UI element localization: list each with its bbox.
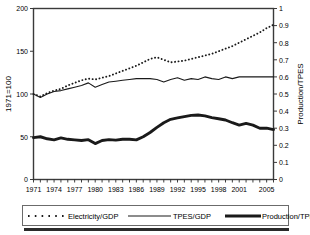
y-right-tick-label: 0.5 bbox=[279, 91, 289, 98]
chart-container: 050100150200 00.10.20.30.40.50.60.70.80.… bbox=[0, 0, 310, 235]
legend-shadow bbox=[24, 228, 289, 231]
x-tick-label: 1971 bbox=[26, 186, 42, 193]
y-right-tick-label: 1 bbox=[279, 5, 283, 12]
legend-label-electricity-gdp: Electricity/GDP bbox=[68, 212, 118, 221]
x-tick-label: 1977 bbox=[67, 186, 83, 193]
x-tick-label: 2001 bbox=[231, 186, 247, 193]
x-tick-label: 1992 bbox=[170, 186, 186, 193]
y-axis-right-title: Production/TPES bbox=[296, 63, 305, 124]
y-right-tick-label: 0 bbox=[279, 176, 283, 183]
x-tick-label: 1995 bbox=[190, 186, 206, 193]
y-axis-left-title: 1971=100 bbox=[4, 76, 13, 112]
y-left-tick-label: 0 bbox=[24, 176, 28, 183]
legend-label-production-tpes: Production/TPES bbox=[262, 212, 310, 221]
y-left-tick-label: 200 bbox=[16, 5, 28, 12]
y-right-tick-label: 0.1 bbox=[279, 159, 289, 166]
x-tick-label: 1980 bbox=[87, 186, 103, 193]
x-tick-label: 1986 bbox=[129, 186, 145, 193]
y-right-tick-label: 0.7 bbox=[279, 57, 289, 64]
y-right-tick-label: 0.4 bbox=[279, 108, 289, 115]
x-tick-label: 1983 bbox=[108, 186, 124, 193]
y-left-tick-label: 100 bbox=[16, 91, 28, 98]
y-right-tick-label: 0.2 bbox=[279, 142, 289, 149]
x-tick-label: 1989 bbox=[149, 186, 165, 193]
y-right-tick-label: 0.8 bbox=[279, 40, 289, 47]
y-left-tick-label: 150 bbox=[16, 48, 28, 55]
x-tick-label: 1998 bbox=[211, 186, 227, 193]
y-right-tick-label: 0.3 bbox=[279, 125, 289, 132]
x-tick-label: 1974 bbox=[46, 186, 62, 193]
y-right-tick-label: 0.9 bbox=[279, 22, 289, 29]
y-right-tick-label: 0.6 bbox=[279, 74, 289, 81]
x-tick-label: 2005 bbox=[259, 186, 275, 193]
chart-background bbox=[0, 0, 310, 235]
y-left-tick-label: 50 bbox=[20, 134, 28, 141]
legend-label-tpes-gdp: TPES/GDP bbox=[173, 212, 211, 221]
line-chart: 050100150200 00.10.20.30.40.50.60.70.80.… bbox=[0, 0, 310, 235]
